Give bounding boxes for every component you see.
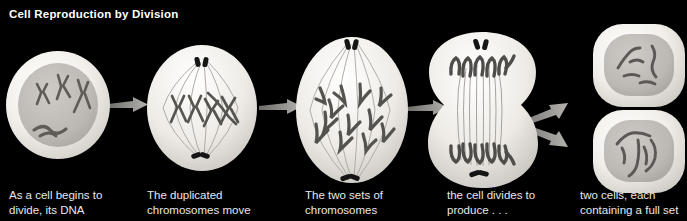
daughter-cell-top — [593, 24, 685, 107]
cell-division-figure: Cell Reproduction by Division — [0, 0, 687, 221]
daughter-cell-bottom — [593, 110, 685, 193]
telophase-cytokinesis-cell — [428, 32, 538, 188]
caption-stage-5: two cells, each containing a full set — [580, 188, 678, 218]
caption-stage-4-line2: produce . . . — [447, 203, 535, 218]
metaphase-cell — [147, 45, 257, 171]
anaphase-cell — [296, 37, 408, 183]
caption-stage-2-line1: The duplicated — [147, 189, 222, 201]
caption-stage-4: the cell divides to produce . . . — [447, 188, 535, 218]
caption-stage-2: The duplicated chromosomes move — [147, 188, 251, 218]
caption-stage-1: As a cell begins to divide, its DNA — [9, 188, 102, 218]
arrow-stage2-to-stage3 — [259, 99, 302, 114]
caption-stage-2-line2: chromosomes move — [147, 203, 251, 218]
caption-stage-5-line1: two cells, each — [580, 189, 655, 201]
interphase-cell — [6, 51, 110, 159]
caption-stage-1-line1: As a cell begins to — [9, 189, 102, 201]
caption-stage-3-line1: The two sets of — [305, 189, 383, 201]
caption-stage-3: The two sets of chromosomes — [305, 188, 383, 218]
caption-stage-3-line2: chromosomes — [305, 203, 383, 218]
caption-stage-4-line1: the cell divides to — [447, 189, 535, 201]
arrow-stage1-to-stage2 — [108, 97, 148, 112]
caption-stage-1-line2: divide, its DNA — [9, 203, 102, 218]
caption-stage-5-line2: containing a full set — [580, 203, 678, 218]
